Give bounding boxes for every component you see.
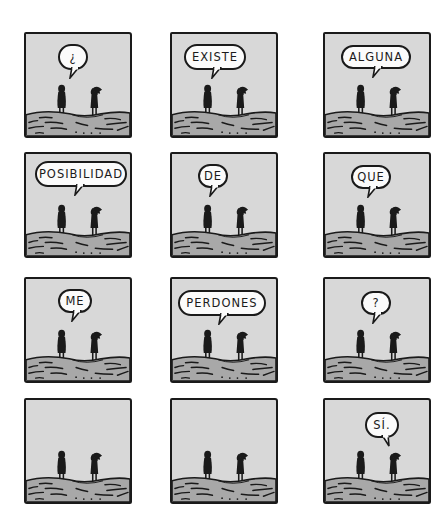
comic-panel-4: POSIBILIDAD xyxy=(24,152,132,258)
left-figure xyxy=(57,330,65,360)
ground xyxy=(172,112,276,136)
left-figure xyxy=(203,205,211,235)
speech-bubble-tail xyxy=(211,67,223,79)
comic-panel-9: ? xyxy=(323,277,431,383)
ground xyxy=(26,357,130,381)
comic-panel-11 xyxy=(170,398,278,504)
right-figure xyxy=(390,87,402,116)
right-figure xyxy=(237,332,249,361)
ground xyxy=(325,478,429,502)
comic-panel-6: QUE xyxy=(323,152,431,258)
ground xyxy=(172,232,276,256)
right-figure xyxy=(237,207,249,236)
right-figure xyxy=(390,207,402,236)
right-figure xyxy=(91,207,103,236)
right-figure xyxy=(237,87,249,116)
ground xyxy=(325,357,429,381)
comic-panel-1: ¿ xyxy=(24,32,132,138)
comic-panel-8: PERDONES xyxy=(170,277,278,383)
left-figure xyxy=(57,451,65,481)
scene-illustration xyxy=(172,400,276,502)
right-figure xyxy=(91,332,103,361)
ground xyxy=(26,232,130,256)
right-figure xyxy=(237,453,249,482)
left-figure xyxy=(203,451,211,481)
comic-panel-2: EXISTE xyxy=(170,32,278,138)
left-figure xyxy=(203,85,211,115)
comic-panel-7: ME xyxy=(24,277,132,383)
comic-panel-5: DE xyxy=(170,152,278,258)
right-figure xyxy=(91,453,103,482)
ground xyxy=(325,232,429,256)
speech-bubble-tail xyxy=(372,66,384,78)
comic-panel-10 xyxy=(24,398,132,504)
ground xyxy=(26,478,130,502)
speech-bubble-tail xyxy=(372,312,384,324)
left-figure xyxy=(356,330,364,360)
comic-panel-3: ALGUNA xyxy=(323,32,431,138)
speech-bubble-tail xyxy=(209,185,221,197)
left-figure xyxy=(203,330,211,360)
left-figure xyxy=(356,85,364,115)
left-figure xyxy=(57,205,65,235)
speech-bubble-tail xyxy=(74,184,86,196)
speech-bubble-tail xyxy=(218,313,230,325)
left-figure xyxy=(356,205,364,235)
ground xyxy=(172,478,276,502)
right-figure xyxy=(91,87,103,116)
comic-panel-12: SÍ. xyxy=(323,398,431,504)
ground xyxy=(172,357,276,381)
ground xyxy=(26,112,130,136)
left-figure xyxy=(356,451,364,481)
speech-bubble-tail xyxy=(69,67,81,79)
left-figure xyxy=(57,85,65,115)
speech-bubble-tail xyxy=(381,435,393,447)
speech-bubble-tail xyxy=(367,186,379,198)
right-figure xyxy=(390,332,402,361)
speech-bubble-tail xyxy=(71,310,83,322)
scene-illustration xyxy=(26,400,130,502)
ground xyxy=(325,112,429,136)
right-figure xyxy=(390,453,402,482)
